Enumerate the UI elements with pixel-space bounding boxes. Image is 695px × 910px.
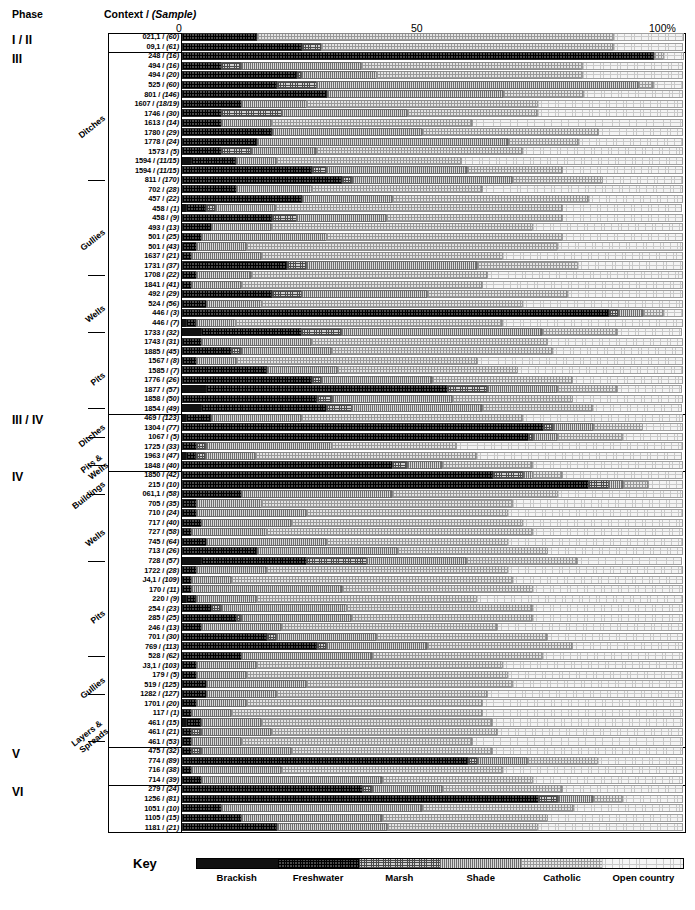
context-label: 1567 / (8) (110, 357, 179, 365)
context-id: 1731 / (144, 261, 166, 270)
sample-id: (20) (166, 699, 179, 708)
sample-id: (56) (166, 299, 179, 308)
sample-id: (13) (166, 223, 179, 232)
sample-id: (41) (166, 280, 179, 289)
context-id: 285 / (148, 613, 166, 622)
bar-segment-open (613, 43, 683, 51)
bar-segment-marsh (211, 604, 221, 612)
bar-segment-marsh (191, 728, 201, 736)
bar-segment-shade (191, 576, 231, 584)
column-header-context: Context / (Sample) (104, 8, 196, 22)
bar-segment-shade (267, 366, 337, 374)
context-label: 461 / (21) (110, 728, 179, 736)
bar-segment-shade (241, 614, 352, 622)
bar-segment-shade (326, 642, 427, 650)
bar-segment-open (557, 490, 683, 498)
context-id: 461 / (148, 718, 166, 727)
stacked-bar-row (182, 709, 685, 717)
bar-segment-open (572, 395, 683, 403)
context-label: 179 / (5) (110, 671, 179, 679)
context-id: 713 / (148, 546, 166, 555)
context-id: 1607 / (134, 99, 156, 108)
context-label: 494 / (20) (110, 71, 179, 79)
stacked-bar-row (182, 309, 685, 317)
context-id: J4,1 / (142, 575, 162, 584)
bar-segment-open (532, 223, 683, 231)
bar-segment-catholic (235, 319, 502, 327)
bar-segment-open (532, 461, 683, 469)
bar-segment-open (573, 804, 684, 812)
stacked-bar-row (182, 623, 685, 631)
sample-id: (58) (166, 489, 179, 498)
context-id: 494 / (148, 61, 166, 70)
bar-segment-open (617, 328, 682, 336)
bar-segment-open (507, 566, 683, 574)
bar-segment-open (482, 185, 683, 193)
bar-segment-freshwater (182, 166, 313, 174)
context-id: 1733 / (144, 328, 166, 337)
stacked-bar-row (182, 100, 685, 108)
context-id: 469 / (144, 413, 162, 422)
bar-segment-shade (201, 519, 292, 527)
stacked-bar-row (182, 366, 685, 374)
bar-segment-marsh (196, 452, 206, 460)
context-id: 1877 / (144, 385, 166, 394)
bar-segment-catholic (342, 585, 533, 593)
bar-segment-catholic (386, 214, 562, 222)
sample-id: (13) (166, 623, 179, 632)
context-id: 525 / (148, 80, 166, 89)
stacked-bar-row (182, 138, 685, 146)
stacked-bar-row (182, 423, 685, 431)
context-id: 716 / (148, 765, 166, 774)
group-label-line: Pits (19, 608, 107, 680)
context-label: 525 / (60) (110, 81, 179, 89)
context-id: J3,1 / (142, 661, 162, 670)
figure-sheet: Phase Context / (Sample) 0 50 100% I / I… (0, 0, 695, 910)
bar-segment-open (502, 252, 683, 260)
sample-id: (15) (166, 813, 179, 822)
sample-id: (125) (162, 680, 179, 689)
bar-segment-freshwater (182, 776, 202, 784)
stacked-bar-row (182, 71, 685, 79)
bar-segment-open (532, 604, 683, 612)
context-label: 1573 / (5) (110, 148, 179, 156)
sample-id: (22) (166, 270, 179, 279)
bar-segment-shade (196, 509, 307, 517)
stacked-bar-row (182, 642, 685, 650)
group-label: Ditches (19, 113, 107, 185)
context-label: 493 / (13) (110, 224, 179, 232)
context-id: 179 / (152, 670, 170, 679)
bar-segment-catholic (311, 338, 547, 346)
bar-segment-open (547, 814, 683, 822)
bar-segment-freshwater (182, 252, 192, 260)
legend-label: Open country (603, 872, 684, 883)
bar-segment-freshwater (182, 699, 197, 707)
bar-segment-open (577, 261, 683, 269)
sample-id: (11/15) (157, 156, 179, 165)
bar-segment-open (562, 471, 683, 479)
context-id: 1743 / (144, 337, 166, 346)
sample-id: (89) (166, 756, 179, 765)
context-label: 1725 / (33) (110, 443, 179, 451)
bar-segment-open (562, 166, 683, 174)
bar-segment-open (622, 795, 682, 803)
sample-id: (43) (166, 242, 179, 251)
group-label: Pits (19, 608, 107, 680)
bar-segment-shade (281, 109, 407, 117)
group-label-line: Ditches (19, 113, 107, 185)
bar-segment-shade (321, 376, 432, 384)
context-id: 1776 / (144, 375, 166, 384)
sample-id: (64) (166, 537, 179, 546)
bar-segment-freshwater (182, 757, 469, 765)
bar-segment-marsh (301, 328, 341, 336)
column-header-phase: Phase (12, 8, 43, 22)
context-label: 1256 / (81) (110, 795, 179, 803)
bar-segment-catholic (427, 290, 568, 298)
bar-segment-shade (608, 480, 623, 488)
bar-segment-shade (196, 699, 246, 707)
stacked-bar-row (182, 661, 685, 669)
bar-segment-shade (196, 566, 266, 574)
bar-segment-shade (201, 747, 292, 755)
group-bracket-tick (88, 408, 105, 409)
sample-id: (60) (166, 80, 179, 89)
